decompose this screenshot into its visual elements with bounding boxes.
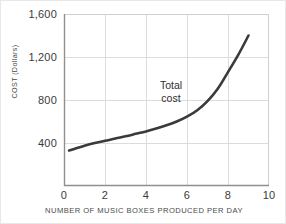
total-cost-annotation-line-1: Total: [142, 79, 200, 92]
total-cost-annotation: Total cost: [142, 79, 200, 105]
cost-curve-chart: 1,600 1,200 800 400 0 2 4 6 8 10 COST (D…: [0, 0, 286, 224]
xtick-label-2: 2: [90, 189, 120, 201]
y-axis-title: COST (Dollars): [10, 34, 19, 110]
xtick-label-6: 6: [172, 189, 202, 201]
xtick-label-0: 0: [49, 189, 79, 201]
ytick-label-1600: 1,600: [5, 8, 57, 20]
xtick-label-8: 8: [213, 189, 243, 201]
xtick-label-10: 10: [254, 189, 284, 201]
xtick-label-4: 4: [131, 189, 161, 201]
total-cost-annotation-line-2: cost: [142, 92, 200, 105]
ytick-label-400: 400: [5, 137, 57, 149]
x-axis-title: NUMBER OF MUSIC BOXES PRODUCED PER DAY: [1, 206, 286, 215]
